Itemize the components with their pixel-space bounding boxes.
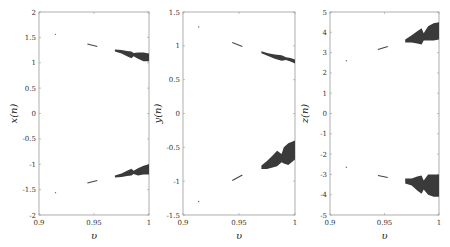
y-tick-label: 3 [323,49,327,57]
x-tick-label: 0.9 [177,219,188,227]
y-tick-label: -4 [320,191,327,199]
y-tick-label: 1 [32,59,36,67]
y-tick-label: 0 [323,110,327,118]
chaotic-band [261,141,295,169]
orbit-segment [87,44,97,47]
data-point [346,60,347,61]
data-point [346,167,347,168]
y-tick-label: -0.5 [23,135,37,143]
data-point [55,34,56,35]
y-tick-label: -1.5 [23,186,37,194]
plot-frame [183,12,295,215]
y-tick-label: 1 [323,90,327,98]
y-tick-label: 0 [32,110,36,118]
y-tick-label: 1.5 [25,34,36,42]
x-axis-label: υ [381,230,387,241]
data-point [198,26,199,27]
chaotic-band [115,50,149,62]
x-tick-label: 0.9 [324,219,335,227]
y-tick-label: 2 [323,69,327,77]
orbit-segment [378,47,388,50]
y-tick-label: 0.5 [25,85,36,93]
y-axis-label: y(n) [152,103,163,124]
panel-y: -1.5-1-0.500.511.50.90.951υy(n) [152,9,297,242]
y-tick-label: 5 [323,9,327,17]
y-tick-label: -3 [320,171,327,179]
y-axis-label: x(n) [8,103,19,123]
x-tick-label: 1 [437,219,441,227]
x-tick-label: 0.9 [33,219,44,227]
data-point [198,201,199,202]
y-tick-label: -1 [173,178,180,186]
chaotic-band [405,22,439,44]
y-tick-label: -0.5 [167,144,181,152]
chaotic-band [405,174,439,196]
orbit-segment [87,180,97,183]
orbit-segment [378,175,388,177]
y-tick-label: 2 [32,9,36,17]
x-tick-label: 0.95 [86,219,102,227]
x-tick-label: 1 [147,219,151,227]
panel-x: -2-1.5-1-0.500.511.520.90.951υx(n) [8,9,151,242]
chaotic-band [261,51,295,63]
y-tick-label: 1 [176,42,180,50]
orbit-segment [232,175,242,180]
x-tick-label: 0.95 [231,219,247,227]
panel-z: -5-4-3-2-10123450.90.951υz(n) [299,9,441,242]
plot-frame [39,12,149,215]
bifurcation-figure: -2-1.5-1-0.500.511.520.90.951υx(n) -1.5-… [0,0,450,247]
y-tick-label: 0.5 [169,76,180,84]
chaotic-band [115,164,149,177]
y-tick-label: 4 [323,29,328,37]
y-tick-label: 0 [176,110,180,118]
data-point [55,192,56,193]
y-tick-label: -2 [320,151,327,159]
y-axis-label: z(n) [299,104,310,125]
x-tick-label: 1 [293,219,297,227]
orbit-segment [232,42,242,46]
x-tick-label: 0.95 [377,219,393,227]
x-axis-label: υ [236,230,242,241]
y-tick-label: -1 [320,130,327,138]
x-axis-label: υ [91,230,97,241]
y-tick-label: -1 [29,161,36,169]
y-tick-label: 1.5 [169,9,180,17]
